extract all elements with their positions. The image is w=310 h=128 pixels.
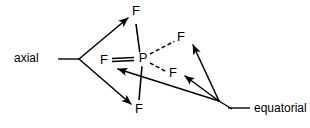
equatorial-arrow-to-upper-right-f [193, 45, 219, 101]
bond-p-f-equatorial-left-lower [112, 61, 134, 62]
axial-label: axial [14, 51, 39, 65]
diagram-canvas: P F F F F F axial equatorial [0, 0, 310, 128]
equatorial-label: equatorial [254, 101, 307, 115]
atom-label-fluorine-axial-top: F [132, 3, 140, 18]
bond-p-f-equatorial-lower-right [150, 63, 167, 72]
atom-label-fluorine-axial-bottom: F [135, 101, 143, 116]
atom-label-fluorine-equatorial-left: F [100, 52, 108, 67]
bond-p-f-axial-bottom [139, 66, 142, 100]
atom-label-group: P F F F F F [100, 3, 185, 116]
atom-label-phosphorus: P [139, 50, 148, 65]
bond-p-f-equatorial-left-upper [112, 57, 134, 58]
chemical-structure-diagram: P F F F F F axial equatorial [0, 0, 310, 128]
bond-p-f-equatorial-upper-right [150, 41, 175, 54]
atom-label-fluorine-equatorial-lower-right: F [169, 65, 177, 80]
atom-label-fluorine-equatorial-upper-right: F [177, 29, 185, 44]
